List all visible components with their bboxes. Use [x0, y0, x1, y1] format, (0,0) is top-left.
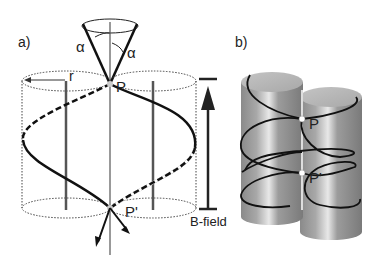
point-p-prime-marker-b — [299, 170, 305, 176]
exit-line-left — [98, 208, 110, 242]
panel-a-label: a) — [18, 34, 30, 50]
radius-label: r — [69, 68, 74, 84]
point-p-label: P — [116, 78, 126, 95]
figure: a) α α r — [0, 0, 377, 257]
exit-arrowhead-right — [121, 226, 130, 234]
cylinder-left — [241, 72, 303, 225]
cylinder-left-cap — [241, 72, 303, 92]
point-p-label-b: P — [309, 115, 319, 132]
dotted-cylinders — [22, 71, 196, 218]
radius-arrowhead — [24, 77, 31, 83]
angle-alpha-left: α — [76, 38, 85, 55]
point-p-marker-b — [299, 116, 305, 122]
b-field-arrow — [199, 79, 217, 209]
b-field-arrowhead — [201, 86, 215, 110]
panel-a: a) α α r — [18, 19, 227, 255]
angle-alpha-right: α — [127, 44, 136, 61]
point-p-prime-label: P' — [125, 203, 138, 220]
cylinder-right-cap — [300, 87, 362, 107]
point-p-marker — [107, 81, 113, 87]
point-p-prime-label-b: P' — [309, 169, 322, 186]
panel-b-label: b) — [235, 34, 247, 50]
b-field-label: B-field — [190, 214, 227, 229]
panel-b: b) P P' — [235, 34, 362, 240]
angle-arc-right — [112, 43, 123, 52]
